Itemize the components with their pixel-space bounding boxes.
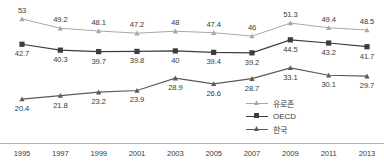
series-line	[22, 68, 367, 99]
data-label: 43.2	[321, 48, 335, 57]
legend-item-1[interactable]: 유로존	[246, 97, 294, 109]
series-3	[19, 65, 369, 101]
series-line	[22, 40, 367, 53]
data-label: 49.4	[321, 14, 335, 23]
data-label: 49.2	[53, 15, 67, 24]
data-label: 48.1	[91, 17, 105, 26]
data-point-marker	[173, 48, 178, 53]
data-label: 39.8	[130, 56, 144, 65]
data-label: 21.8	[53, 100, 67, 109]
data-point-marker	[211, 50, 216, 55]
x-axis-tick-2011: 2011	[321, 149, 337, 158]
series-1	[19, 16, 369, 38]
data-point-marker	[288, 37, 293, 42]
data-label: 39.2	[245, 57, 259, 66]
data-point-marker	[96, 49, 101, 54]
x-axis-tick-2007: 2007	[244, 149, 261, 158]
legend-square-marker-icon	[246, 111, 268, 121]
legend-item-2[interactable]: OECD	[246, 110, 296, 122]
legend-label: OECD	[273, 112, 296, 121]
data-label: 30.1	[321, 80, 335, 89]
data-label: 29.7	[360, 81, 374, 90]
legend-triangle-marker-icon	[246, 98, 268, 108]
legend-label: 한국	[273, 124, 287, 135]
data-label: 23.2	[91, 97, 105, 106]
data-label: 46	[248, 23, 256, 32]
data-point-marker	[19, 42, 24, 47]
data-label: 40	[171, 55, 179, 64]
data-point-marker	[364, 44, 369, 49]
x-axis-tick-2003: 2003	[167, 149, 184, 158]
data-label: 20.4	[15, 104, 29, 113]
data-label: 28.9	[168, 83, 182, 92]
x-axis-tick-2001: 2001	[129, 149, 146, 158]
data-label: 48.5	[360, 16, 374, 25]
data-point-marker	[134, 49, 139, 54]
data-label: 28.7	[245, 83, 259, 92]
data-label: 39.7	[91, 56, 105, 65]
data-label: 48	[171, 18, 179, 27]
data-label: 47.4	[206, 19, 220, 28]
x-axis-tick-1999: 1999	[90, 149, 107, 158]
legend-label: 유로존	[273, 98, 294, 109]
legend-item-3[interactable]: 한국	[246, 123, 287, 135]
legend-triangle-marker-icon	[246, 124, 268, 134]
series-line	[22, 19, 367, 36]
data-label: 33.1	[283, 72, 297, 81]
data-point-marker	[326, 40, 331, 45]
data-label: 47.2	[130, 20, 144, 29]
data-label: 41.7	[360, 51, 374, 60]
data-label: 51.3	[283, 10, 297, 19]
data-label: 42.7	[15, 49, 29, 58]
data-label: 44.5	[283, 44, 297, 53]
data-label: 23.9	[130, 95, 144, 104]
x-axis-tick-1997: 1997	[52, 149, 69, 158]
line-chart: 5349.248.147.24847.44651.349.448.542.740…	[0, 0, 384, 168]
data-point-marker	[249, 50, 254, 55]
data-point-marker	[19, 16, 24, 21]
data-point-marker	[58, 48, 63, 53]
data-label: 40.3	[53, 55, 67, 64]
x-axis-tick-2009: 2009	[282, 149, 299, 158]
data-label: 26.6	[206, 88, 220, 97]
x-axis-tick-2005: 2005	[205, 149, 222, 158]
data-label: 39.4	[206, 57, 220, 66]
data-label: 53	[18, 5, 26, 14]
x-axis-tick-1995: 1995	[14, 149, 31, 158]
x-axis-tick-2013: 2013	[359, 149, 376, 158]
series-2	[19, 37, 369, 55]
